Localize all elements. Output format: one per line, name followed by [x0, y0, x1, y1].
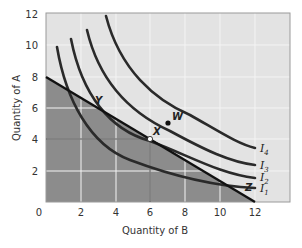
point-w-label: W [172, 111, 184, 122]
point-w-marker [165, 120, 170, 125]
point-z-label: Z [244, 182, 253, 193]
svg-text:12: 12 [25, 9, 38, 20]
svg-text:6: 6 [32, 103, 38, 114]
svg-text:10: 10 [214, 207, 227, 218]
y-axis-ticks: 12 10 8 6 4 2 [25, 9, 38, 177]
svg-text:2: 2 [78, 207, 84, 218]
svg-text:8: 8 [32, 72, 38, 83]
point-x-label: X [152, 126, 162, 137]
svg-text:8: 8 [182, 207, 188, 218]
indifference-curve-chart: W X Y Z I4 I3 I2 I1 12 10 8 6 4 2 0 2 4 … [0, 0, 302, 248]
svg-text:10: 10 [25, 40, 38, 51]
svg-text:4: 4 [32, 134, 38, 145]
curve-labels: I4 I3 I2 I1 [259, 142, 269, 197]
x-axis-ticks: 0 2 4 6 8 10 12 [36, 207, 262, 218]
svg-text:2: 2 [32, 166, 38, 177]
y-axis-label: Quantity of A [11, 75, 22, 141]
svg-text:4: 4 [113, 207, 119, 218]
point-x-marker [147, 136, 152, 141]
svg-text:0: 0 [36, 207, 42, 218]
x-axis-label: Quantity of B [122, 225, 188, 236]
svg-text:12: 12 [249, 207, 262, 218]
svg-text:6: 6 [147, 207, 153, 218]
